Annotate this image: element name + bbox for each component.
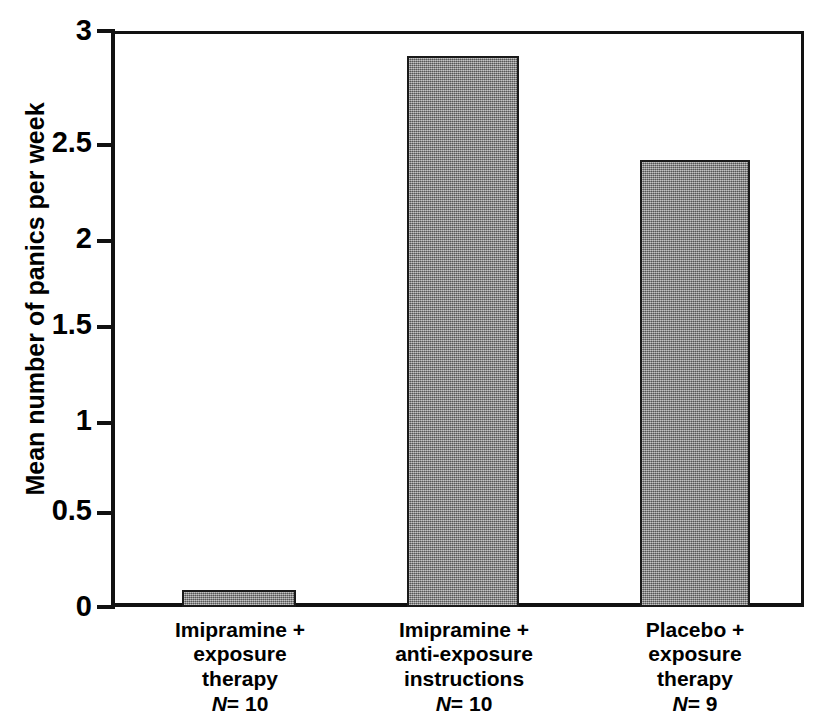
y-tick-label-1-5: 1.5 — [0, 310, 92, 339]
n-equals-1: = — [227, 692, 239, 715]
n-value-3: 9 — [706, 692, 718, 715]
x-category-label-1-line-1: Imipramine + — [152, 618, 328, 642]
n-symbol-2: N — [436, 692, 451, 715]
n-equals-2: = — [451, 692, 463, 715]
x-category-label-1-line-2: exposure — [152, 642, 328, 666]
y-tick-label-0-5: 0.5 — [0, 496, 92, 525]
bar-imipramine-anti-exposure-instructions — [407, 56, 519, 607]
x-category-label-1-line-3: therapy — [152, 667, 328, 691]
bar-placebo-exposure-therapy — [640, 160, 750, 607]
bar-chart-figure: Mean number of panics per week 3 2.5 2 1… — [0, 0, 823, 728]
x-category-label-1-sample-size: N= 10 — [152, 692, 328, 716]
y-tick-label-2: 2 — [0, 224, 92, 253]
n-equals-3: = — [688, 692, 700, 715]
x-category-label-3-line-3: therapy — [607, 667, 783, 691]
x-category-label-3-sample-size: N= 9 — [607, 692, 783, 716]
y-tick-label-3: 3 — [0, 16, 92, 45]
y-tick-label-1: 1 — [0, 406, 92, 435]
x-category-label-3-line-2: exposure — [607, 642, 783, 666]
n-value-2: 10 — [469, 692, 492, 715]
x-category-label-2-line-3: instructions — [375, 667, 553, 691]
x-category-label-2-sample-size: N= 10 — [375, 692, 553, 716]
n-value-1: 10 — [245, 692, 268, 715]
n-symbol-3: N — [673, 692, 688, 715]
x-category-label-3-line-1: Placebo + — [607, 618, 783, 642]
y-tick-label-2-5: 2.5 — [0, 128, 92, 157]
y-tick-label-0: 0 — [0, 592, 92, 621]
x-category-label-2-line-1: Imipramine + — [375, 618, 553, 642]
x-category-label-2: Imipramine + anti-exposure instructions … — [375, 618, 553, 716]
x-category-label-1: Imipramine + exposure therapy N= 10 — [152, 618, 328, 716]
x-category-label-2-line-2: anti-exposure — [375, 642, 553, 666]
n-symbol-1: N — [212, 692, 227, 715]
bar-imipramine-exposure-therapy — [182, 590, 296, 607]
x-category-label-3: Placebo + exposure therapy N= 9 — [607, 618, 783, 716]
